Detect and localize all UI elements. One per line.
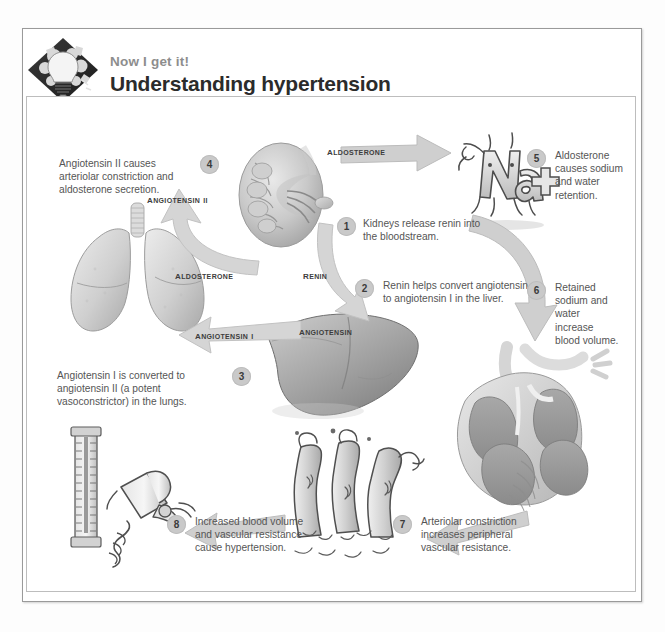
- step-3-text: Angiotensin I is converted to angiotensi…: [57, 369, 229, 409]
- label-angiotensin-i: Angiotensin I: [195, 329, 253, 341]
- step-6-text: Retained sodium and water increase blood…: [555, 281, 619, 347]
- page-title: Understanding hypertension: [110, 72, 391, 96]
- step-4-text: Angiotensin II causes arteriolar constri…: [59, 157, 189, 197]
- step-8-text: Increased blood volume and vascular resi…: [195, 515, 309, 555]
- page-canvas: Now I get it! Understanding hypertension: [0, 0, 665, 632]
- heart-illustration: [447, 341, 622, 509]
- lightbulb-gear-diamond-logo: [26, 36, 100, 104]
- step-2-badge: 2: [355, 279, 374, 298]
- step-2-text: Renin helps convert angiotensin to angio…: [383, 279, 535, 305]
- label-renin: Renin: [303, 269, 327, 281]
- label-aldosterone-top: Aldosterone: [327, 145, 385, 157]
- step-3-badge: 3: [232, 367, 251, 386]
- diagram-frame: Angiotensin II causes arteriolar constri…: [26, 96, 636, 592]
- step-7-text: Arteriolar constriction increases periph…: [421, 515, 539, 555]
- step-7-badge: 7: [393, 515, 412, 534]
- step-1-badge: 1: [337, 217, 356, 236]
- step-5-badge: 5: [527, 149, 546, 168]
- label-aldosterone-left: Aldosterone: [175, 269, 233, 281]
- step-5-text: Aldosterone causes sodium and water rete…: [555, 149, 627, 202]
- kicker-text: Now I get it!: [110, 54, 189, 69]
- label-angiotensin-ii: Angiotensin II: [147, 193, 208, 205]
- step-8-badge: 8: [167, 515, 186, 534]
- step-6-badge: 6: [527, 281, 546, 300]
- label-angiotensin: Angiotensin: [299, 325, 352, 337]
- step-1-text: Kidneys release renin into the bloodstre…: [363, 217, 487, 243]
- arrow-aldosterone-to-sodium: [339, 133, 459, 185]
- step-4-badge: 4: [200, 155, 219, 174]
